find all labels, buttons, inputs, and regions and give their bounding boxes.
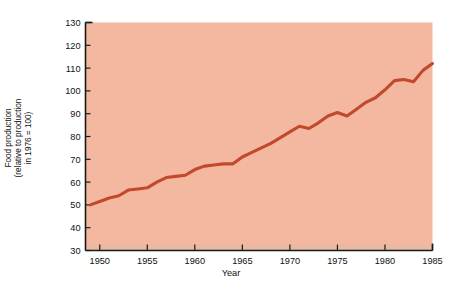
- plot-background-group: [86, 23, 433, 251]
- figure-container: ) Food production (relative to productio…: [0, 0, 458, 292]
- y-axis-tick-label: 60: [70, 178, 80, 188]
- x-axis-tick-label: 1975: [327, 256, 347, 266]
- y-axis-tick-label: 100: [65, 86, 80, 96]
- x-axis-tick-label: 1955: [137, 256, 157, 266]
- y-axis-tick-label: 120: [65, 41, 80, 51]
- x-axis-tick-label: 1965: [232, 256, 252, 266]
- y-axis-tick-label: 50: [70, 200, 80, 210]
- scan-tint-bottom: [86, 245, 433, 251]
- x-axis-tick-label: 1980: [375, 256, 395, 266]
- y-axis-tick-label: 110: [66, 64, 81, 74]
- y-axis-tick-label: 80: [70, 132, 80, 142]
- x-axis-tick-label: 1960: [185, 256, 205, 266]
- y-axis-tick-label: 40: [70, 223, 80, 233]
- x-axis-tick-label: 1985: [422, 256, 442, 266]
- x-axis-tick-label: 1950: [90, 256, 110, 266]
- plot-area-background: [86, 23, 433, 251]
- y-axis-tick-label: 130: [65, 18, 80, 28]
- line-chart-plot: 3040506070809010011012013019501955196019…: [0, 0, 458, 292]
- x-axis-title: Year: [0, 268, 458, 278]
- x-axis-title-text: Year: [222, 268, 241, 278]
- y-axis-tick-label: 70: [70, 155, 80, 165]
- y-axis-tick-label: 30: [70, 246, 80, 256]
- x-axis-tick-label: 1970: [280, 256, 300, 266]
- y-axis-tick-label: 90: [70, 109, 80, 119]
